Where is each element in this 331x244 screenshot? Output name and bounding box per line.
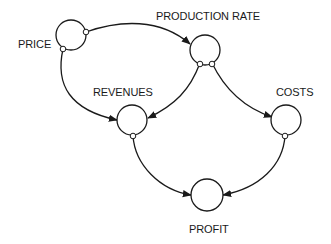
edge-price-to-production-rate xyxy=(86,23,190,44)
label-production-rate: PRODUCTION RATE xyxy=(156,10,260,22)
port-revenues-bottom xyxy=(130,133,136,139)
node-revenues xyxy=(117,105,147,135)
node-profit xyxy=(191,179,223,211)
label-costs: COSTS xyxy=(276,86,313,98)
port-price-bottom xyxy=(60,46,66,52)
edge-costs-to-profit xyxy=(223,136,285,195)
edge-revenues-to-profit xyxy=(133,136,191,195)
edge-price-to-revenues xyxy=(61,49,117,120)
port-production-rate-left xyxy=(197,61,203,67)
label-price: PRICE xyxy=(18,38,51,50)
diagram-graphics xyxy=(0,0,331,244)
label-profit: PROFIT xyxy=(189,223,229,235)
diagram-canvas: PRICE PRODUCTION RATE REVENUES COSTS PRO… xyxy=(0,0,331,244)
port-production-rate-right xyxy=(209,61,215,67)
label-revenues: REVENUES xyxy=(93,86,153,98)
port-price-right xyxy=(83,29,89,35)
node-costs xyxy=(271,105,301,135)
node-production-rate xyxy=(190,35,220,65)
edge-production-rate-to-revenues xyxy=(148,63,200,118)
port-costs-bottom xyxy=(282,133,288,139)
node-price xyxy=(56,20,86,50)
edge-production-rate-to-costs xyxy=(212,63,272,117)
